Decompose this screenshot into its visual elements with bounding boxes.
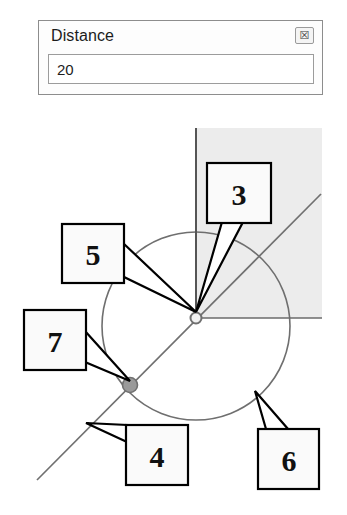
callout-label-7: 7 xyxy=(48,325,63,358)
callout-tail-6 xyxy=(255,391,288,429)
callout-label-6: 6 xyxy=(282,444,297,477)
geometry-diagram: 3 5 7 4 6 xyxy=(0,0,347,515)
screenshot-root: Distance ☒ 3 xyxy=(0,0,347,515)
diagram-canvas: 3 5 7 4 6 xyxy=(0,0,347,515)
callout-label-5: 5 xyxy=(86,238,101,271)
callout-label-3: 3 xyxy=(232,178,247,211)
callout-label-4: 4 xyxy=(150,440,165,473)
callout-tail-7 xyxy=(85,331,130,381)
center-node-marker[interactable] xyxy=(191,313,202,324)
callout-tail-5 xyxy=(122,243,196,312)
callout-tail-4 xyxy=(86,423,127,442)
